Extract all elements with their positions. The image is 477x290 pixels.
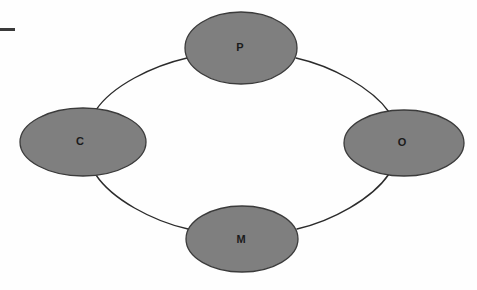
connector-c-to-p bbox=[96, 58, 187, 110]
corner-dash-mark bbox=[0, 28, 15, 31]
node-m[interactable]: M bbox=[186, 206, 298, 272]
node-o[interactable]: O bbox=[344, 110, 464, 176]
connector-m-to-c bbox=[96, 175, 188, 229]
node-p-label: P bbox=[236, 41, 243, 53]
node-o-label: O bbox=[398, 136, 407, 148]
node-m-label: M bbox=[236, 233, 245, 245]
node-c-label: C bbox=[76, 135, 84, 147]
connector-o-to-m bbox=[297, 174, 389, 229]
cycle-diagram: P C O M bbox=[0, 0, 477, 290]
node-p[interactable]: P bbox=[185, 12, 297, 84]
diagram-canvas: P C O M bbox=[0, 0, 477, 290]
connector-p-to-o bbox=[296, 58, 389, 112]
node-c[interactable]: C bbox=[20, 108, 146, 176]
